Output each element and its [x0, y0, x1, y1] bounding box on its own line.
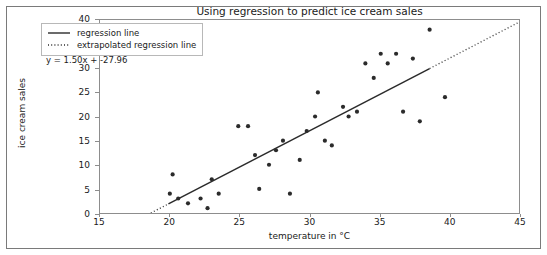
y-tick-label: 20	[0, 112, 90, 122]
y-axis-label: ice cream sales	[17, 53, 27, 173]
data-point	[257, 187, 261, 191]
data-point	[330, 143, 334, 147]
legend-label-extrapolated-line: extrapolated regression line	[77, 40, 196, 50]
data-point	[341, 105, 345, 109]
y-tick-mark	[95, 19, 99, 20]
legend-label-regression-line: regression line	[77, 28, 139, 38]
extrapolated-regression-line-2	[430, 22, 519, 68]
data-point	[205, 206, 209, 210]
data-point	[443, 95, 447, 99]
legend-box: regression line extrapolated regression …	[41, 23, 203, 56]
x-tick-label: 30	[304, 217, 315, 227]
y-tick-label: 10	[0, 160, 90, 170]
data-point	[394, 52, 398, 56]
x-tick-label: 35	[374, 217, 385, 227]
regression-line-group	[151, 22, 519, 213]
y-tick-label: 15	[0, 136, 90, 146]
y-tick-mark	[95, 117, 99, 118]
x-tick-label: 20	[163, 217, 174, 227]
legend-dotted-line-icon	[47, 40, 71, 50]
y-tick-mark	[95, 190, 99, 191]
data-point	[323, 139, 327, 143]
data-point	[418, 119, 422, 123]
y-tick-mark	[95, 214, 99, 215]
data-point	[411, 57, 415, 61]
y-tick-mark	[95, 165, 99, 166]
data-point	[171, 172, 175, 176]
data-point	[217, 192, 221, 196]
data-point	[288, 192, 292, 196]
y-tick-mark	[95, 141, 99, 142]
data-point	[372, 76, 376, 80]
y-tick-label: 5	[0, 185, 90, 195]
data-point	[347, 114, 351, 118]
data-point	[281, 139, 285, 143]
data-point	[386, 61, 390, 65]
data-point	[186, 201, 190, 205]
data-point	[313, 114, 317, 118]
y-tick-mark	[95, 92, 99, 93]
data-point	[316, 90, 320, 94]
data-point	[246, 124, 250, 128]
data-point	[267, 163, 271, 167]
legend-item-regression-line: regression line	[47, 27, 196, 39]
regression-equation-annotation: y = 1.50x + -27.96	[46, 55, 127, 65]
legend-solid-line-icon	[47, 28, 71, 38]
x-tick-label: 40	[444, 217, 455, 227]
data-point	[428, 28, 432, 32]
data-point	[363, 61, 367, 65]
chart-figure: Using regression to predict ice cream sa…	[0, 0, 547, 255]
y-tick-mark	[95, 68, 99, 69]
extrapolated-regression-line-1	[151, 204, 169, 213]
x-axis-label: temperature in °C	[99, 231, 520, 241]
x-tick-label: 45	[514, 217, 525, 227]
data-point	[379, 52, 383, 56]
data-point	[198, 196, 202, 200]
y-tick-label: 0	[0, 209, 90, 219]
data-point	[253, 153, 257, 157]
y-tick-label: 25	[0, 87, 90, 97]
data-point	[168, 192, 172, 196]
regression-line	[168, 69, 429, 204]
data-point	[298, 158, 302, 162]
data-point	[401, 110, 405, 114]
x-tick-label: 25	[234, 217, 245, 227]
legend-item-extrapolated-line: extrapolated regression line	[47, 39, 196, 51]
data-point	[355, 110, 359, 114]
x-tick-label: 15	[93, 217, 104, 227]
chart-title: Using regression to predict ice cream sa…	[99, 5, 520, 17]
data-point	[236, 124, 240, 128]
